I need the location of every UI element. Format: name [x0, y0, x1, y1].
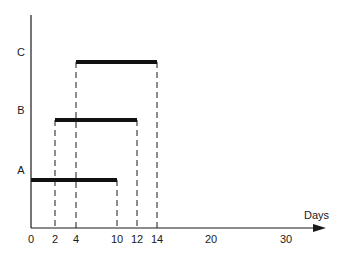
dashed-guide-lines	[55, 62, 157, 228]
x-tick-label: 10	[111, 233, 123, 245]
x-tick-labels: 0241012142030	[28, 233, 292, 245]
x-tick-label: 0	[28, 233, 34, 245]
x-tick-label: 20	[205, 233, 217, 245]
gantt-chart: Days 0241012142030 ABC	[0, 0, 341, 256]
x-tick-label: 30	[280, 233, 292, 245]
task-label-b: B	[17, 104, 24, 116]
task-labels: ABC	[17, 46, 25, 176]
x-tick-label: 4	[73, 233, 79, 245]
task-bars	[31, 62, 157, 180]
x-tick-label: 12	[131, 233, 143, 245]
x-axis-label: Days	[304, 209, 330, 221]
task-label-a: A	[17, 164, 25, 176]
x-tick-label: 14	[151, 233, 163, 245]
x-axis-arrow-icon	[313, 224, 326, 232]
x-tick-label: 2	[52, 233, 58, 245]
task-label-c: C	[17, 46, 25, 58]
